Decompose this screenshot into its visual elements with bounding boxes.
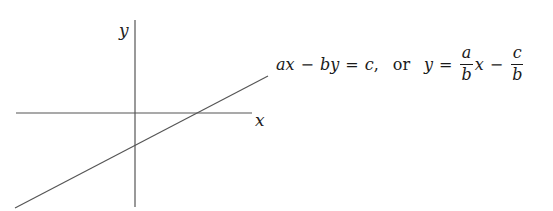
eq-connector: or	[393, 55, 410, 74]
eq-minus: −	[295, 55, 320, 74]
eq-a: a	[276, 55, 286, 74]
eq-b: b	[320, 55, 330, 74]
frac2-denominator: b	[511, 67, 523, 84]
eq-y: y	[330, 55, 339, 74]
eq-x: x	[286, 55, 295, 74]
slope-minus: −	[484, 55, 509, 74]
frac2-numerator: c	[512, 45, 523, 62]
line-equation: ax − by = c, or y = a b x − c b	[276, 42, 525, 86]
fraction-c-over-b: c b	[511, 45, 523, 84]
slope-x: x	[475, 55, 484, 74]
eq-equals: =	[339, 55, 364, 74]
eq-c: c	[365, 55, 374, 74]
x-axis-label: x	[255, 112, 265, 129]
slope-y: y	[424, 55, 433, 74]
eq-comma: ,	[374, 55, 379, 74]
plotted-line	[15, 76, 268, 208]
frac1-denominator: b	[460, 67, 472, 84]
frac1-numerator: a	[461, 45, 473, 62]
slope-equals: =	[433, 55, 458, 74]
fraction-a-over-b: a b	[460, 45, 472, 84]
y-axis-label: y	[119, 22, 129, 39]
coordinate-diagram	[0, 0, 553, 211]
